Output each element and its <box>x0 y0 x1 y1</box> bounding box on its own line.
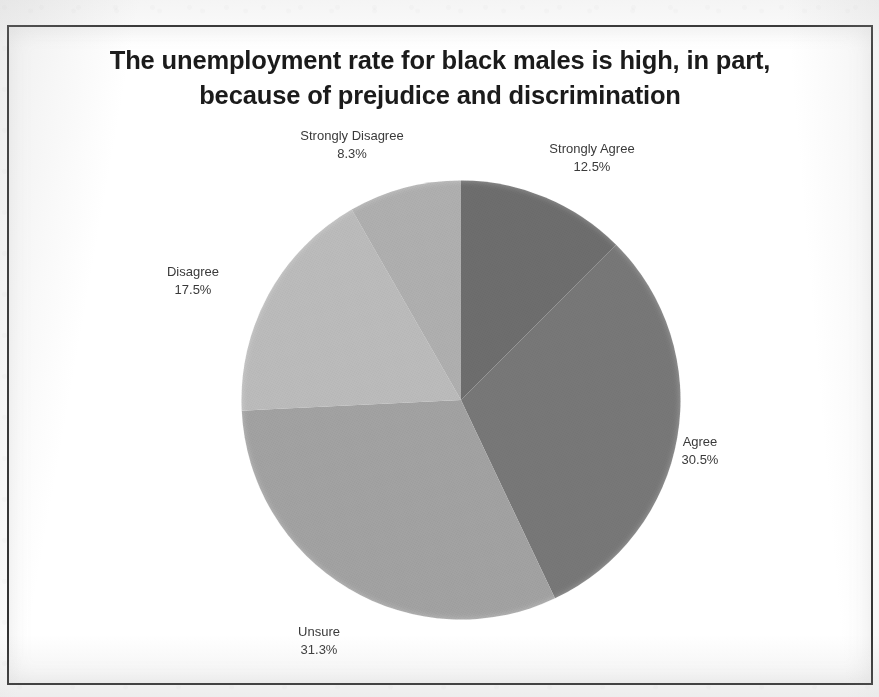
pie-label-strongly-agree-value: 12.5% <box>497 158 687 176</box>
pie-chart-area: Strongly Disagree 8.3% Strongly Agree 12… <box>9 27 875 687</box>
pie-label-strongly-disagree-name: Strongly Disagree <box>257 127 447 145</box>
pie-slices <box>242 181 681 620</box>
pie-label-agree-name: Agree <box>625 433 775 451</box>
pie-label-agree-value: 30.5% <box>625 451 775 469</box>
pie-label-unsure-name: Unsure <box>239 623 399 641</box>
pie-chart <box>241 180 681 620</box>
pie-label-strongly-disagree-value: 8.3% <box>257 145 447 163</box>
pie-label-disagree-value: 17.5% <box>113 281 273 299</box>
pie-label-strongly-agree-name: Strongly Agree <box>497 140 687 158</box>
pie-label-unsure-value: 31.3% <box>239 641 399 659</box>
pie-label-unsure: Unsure 31.3% <box>239 623 399 660</box>
pie-svg <box>241 180 681 620</box>
pie-label-disagree: Disagree 17.5% <box>113 263 273 300</box>
pie-label-strongly-agree: Strongly Agree 12.5% <box>497 140 687 177</box>
pie-label-agree: Agree 30.5% <box>625 433 775 470</box>
pie-label-disagree-name: Disagree <box>113 263 273 281</box>
pie-label-strongly-disagree: Strongly Disagree 8.3% <box>257 127 447 164</box>
chart-frame: The unemployment rate for black males is… <box>7 25 873 685</box>
